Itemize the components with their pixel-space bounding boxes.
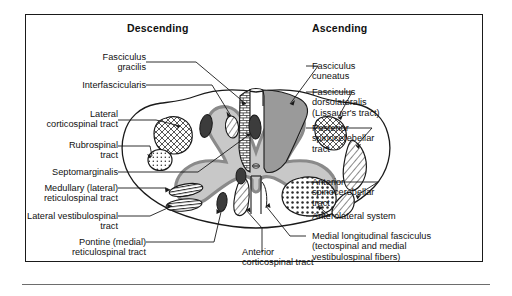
label-fasciculus-cuneatus: Fasciculus cuneatus <box>312 61 355 82</box>
label-interfascicularis: Interfascicularis <box>24 80 146 90</box>
label-lateral-vestibulospinal-tract: Lateral vestibulospinal tract <box>10 211 118 232</box>
label-lateral-corticospinal-tract: Lateral corticospinal tract <box>14 109 118 130</box>
label-posterior-spinocerebellar-tract: Posterior spinocerebellar tract <box>312 123 374 154</box>
label-septomarginalis: Septomarginalis <box>14 167 118 177</box>
label-anterior-spinocerebellar-tract: Anterior spinocerebellar tract <box>312 177 374 208</box>
anterior-dark-oval <box>236 168 246 184</box>
label-fasciculus-gracilis: Fasciculus gracilis <box>44 52 146 73</box>
label-medullary-reticulospinal-tract: Medullary (lateral) reticulospinal tract <box>14 183 118 204</box>
leader-lateral-vestibulospinal <box>118 206 172 216</box>
lateral-corticospinal-tract <box>154 117 192 154</box>
label-rubrospinal-tract: Rubrospinal tract <box>14 140 118 161</box>
label-medial-longitudinal-fasciculus: Medial longitudinal fasciculus (tectospi… <box>312 231 431 262</box>
posterior-septum-notch <box>249 89 263 91</box>
label-pontine-reticulospinal-tract: Pontine (medial) reticulospinal tract <box>44 237 146 258</box>
label-fasciculus-dorsolateralis: Fasciculus dorsolateralis (Lissauer's tr… <box>312 87 380 118</box>
label-anterolateral-system: Anterolateral system <box>312 211 396 221</box>
label-anterior-corticospinal-tract: Anterior corticospinal tract <box>242 247 314 268</box>
